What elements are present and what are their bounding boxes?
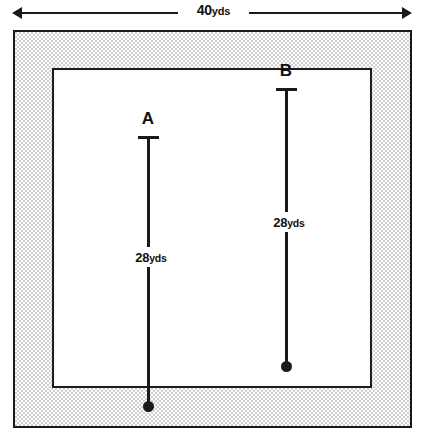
- overall-width-label: 40yds: [178, 2, 249, 18]
- path-a-length-unit: yds: [149, 252, 167, 264]
- point-label-a: A: [128, 110, 168, 127]
- path-b-endpoint-dot: [281, 361, 292, 372]
- dimension-line-right-segment: [249, 12, 408, 14]
- field-diagram-figure: 40yds A 28yds B 28yds: [0, 0, 422, 435]
- path-a-stem: [147, 138, 150, 408]
- path-b-length-label: 28yds: [256, 212, 322, 232]
- overall-width-unit: yds: [212, 5, 230, 17]
- path-b-length-unit: yds: [287, 217, 305, 229]
- path-a-endpoint-dot: [143, 401, 154, 412]
- overall-width-value: 40: [197, 2, 212, 18]
- arrow-right-icon: [402, 7, 412, 19]
- path-a-length-label: 28yds: [118, 247, 184, 267]
- path-a-length-value: 28: [135, 250, 149, 265]
- inner-boundary: [52, 68, 372, 388]
- overall-width-dimension: 40yds: [0, 0, 422, 28]
- dimension-line-left-segment: [16, 12, 178, 14]
- point-label-b: B: [266, 62, 306, 79]
- path-b-length-value: 28: [273, 215, 287, 230]
